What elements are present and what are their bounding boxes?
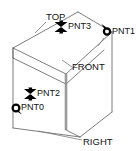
point-marker-pnt2[interactable]: PNT2 — [24, 88, 60, 101]
point-label-pnt2: PNT2 — [37, 88, 60, 98]
point-label-pnt1: PNT1 — [112, 26, 135, 36]
face-label-top: TOP — [46, 11, 65, 22]
point-marker-pnt3[interactable]: PNT3 — [55, 21, 92, 34]
box-edge-inner-band-upper — [13, 58, 66, 84]
box-edge-top-left-front — [13, 48, 66, 74]
point-marker-pnt0[interactable]: PNT0 — [13, 102, 44, 114]
box-edge-bottom-right — [80, 112, 112, 137]
leader-right — [38, 131, 82, 140]
leader-pnt1 — [98, 38, 104, 46]
circle-marker-icon — [104, 28, 110, 34]
isometric-box-drawing: PNT3 PNT1 PNT2 PNT0 TOP FRONT RIGHT — [0, 0, 135, 151]
leader-top — [35, 22, 46, 33]
point-label-pnt3: PNT3 — [68, 21, 91, 31]
face-label-right: RIGHT — [83, 136, 113, 147]
circle-marker-icon — [13, 105, 20, 112]
point-label-pnt0: PNT0 — [21, 102, 44, 112]
point-marker-pnt1[interactable]: PNT1 — [102, 24, 136, 36]
leader-front — [62, 60, 72, 67]
face-label-front: FRONT — [72, 61, 105, 72]
cad-diagram-canvas: PNT3 PNT1 PNT2 PNT0 TOP FRONT RIGHT — [0, 0, 135, 151]
